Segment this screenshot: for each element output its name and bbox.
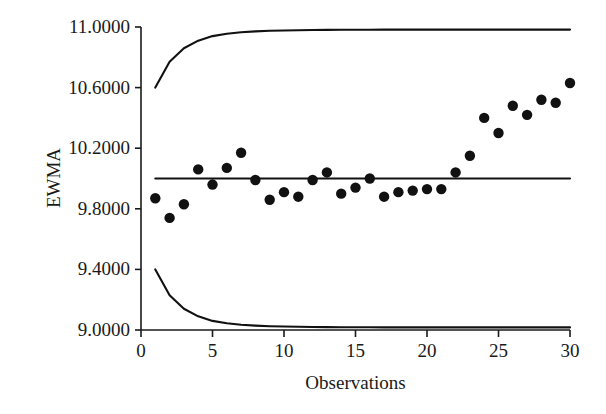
data-point-marker	[279, 187, 289, 197]
y-tick-label: 10.6000	[68, 78, 130, 97]
data-point-marker	[350, 182, 360, 192]
data-point-marker	[293, 191, 303, 201]
data-point-marker	[207, 179, 217, 189]
y-axis-title: EWMA	[43, 118, 65, 238]
y-tick-label: 10.2000	[68, 138, 130, 157]
data-point-marker	[393, 187, 403, 197]
data-point-marker	[164, 213, 174, 223]
data-point-marker	[422, 184, 432, 194]
x-tick-label: 15	[326, 341, 386, 360]
data-point-marker	[436, 184, 446, 194]
x-tick-label: 30	[540, 341, 600, 360]
data-point-marker	[336, 188, 346, 198]
x-tick-label: 20	[397, 341, 457, 360]
x-axis-ticks	[141, 330, 570, 337]
y-tick-label: 9.4000	[78, 259, 130, 278]
data-point-marker	[408, 185, 418, 195]
data-point-marker	[250, 175, 260, 185]
x-tick-label: 25	[469, 341, 529, 360]
data-point-marker	[551, 98, 561, 108]
upper-control-limit-line	[155, 30, 570, 88]
y-tick-label: 11.0000	[69, 17, 130, 36]
data-point-marker	[522, 110, 532, 120]
data-point-marker	[236, 148, 246, 158]
ewma-control-chart: EWMA Observations 9.00009.40009.800010.2…	[0, 0, 606, 414]
y-tick-label: 9.8000	[78, 199, 130, 218]
data-point-marker	[536, 95, 546, 105]
data-point-marker	[365, 173, 375, 183]
data-point-marker	[508, 101, 518, 111]
data-point-markers	[150, 78, 575, 223]
data-point-marker	[307, 175, 317, 185]
data-point-marker	[193, 164, 203, 174]
data-point-marker	[179, 199, 189, 209]
data-point-marker	[379, 191, 389, 201]
x-tick-label: 0	[111, 341, 171, 360]
data-point-marker	[465, 151, 475, 161]
data-point-marker	[265, 195, 275, 205]
data-point-marker	[150, 193, 160, 203]
data-point-marker	[322, 167, 332, 177]
data-point-marker	[565, 78, 575, 88]
data-point-marker	[450, 167, 460, 177]
x-axis-title: Observations	[206, 372, 506, 394]
lower-control-limit-line	[155, 269, 570, 327]
data-point-marker	[222, 163, 232, 173]
x-tick-label: 5	[183, 341, 243, 360]
data-point-marker	[479, 113, 489, 123]
y-axis-ticks	[135, 27, 141, 330]
data-point-marker	[493, 128, 503, 138]
chart-axes	[135, 27, 570, 337]
x-tick-label: 10	[254, 341, 314, 360]
y-tick-label: 9.0000	[78, 320, 130, 339]
